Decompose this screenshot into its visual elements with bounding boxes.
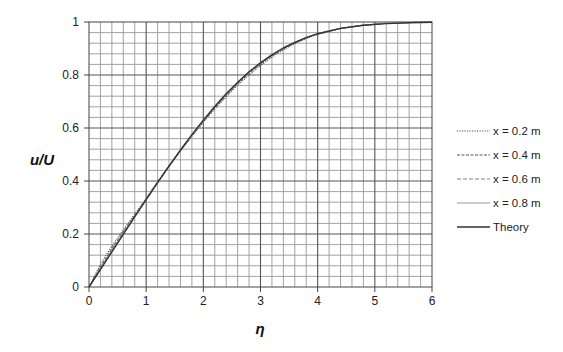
y-tick-label: 0.2 xyxy=(62,227,79,241)
y-axis-ticks: 00.20.40.60.81 xyxy=(62,15,89,294)
major-gridlines xyxy=(89,22,432,287)
legend-label: x = 0.4 m xyxy=(493,149,541,161)
y-axis-title: u/U xyxy=(30,151,55,168)
boundary-layer-velocity-chart: 0123456 00.20.40.60.81 η u/U x = 0.2 mx … xyxy=(0,0,563,352)
x-tick-label: 0 xyxy=(86,294,93,308)
y-tick-label: 0 xyxy=(72,280,79,294)
y-tick-label: 0.4 xyxy=(62,174,79,188)
x-tick-label: 3 xyxy=(257,294,264,308)
x-tick-label: 4 xyxy=(314,294,321,308)
legend-label: x = 0.2 m xyxy=(493,125,541,137)
x-axis-title: η xyxy=(255,320,264,337)
x-tick-label: 6 xyxy=(429,294,436,308)
legend-label: x = 0.6 m xyxy=(493,173,541,185)
x-tick-label: 5 xyxy=(371,294,378,308)
x-tick-label: 1 xyxy=(143,294,150,308)
y-tick-label: 1 xyxy=(72,15,79,29)
legend: x = 0.2 mx = 0.4 mx = 0.6 mx = 0.8 mTheo… xyxy=(457,125,541,233)
y-tick-label: 0.8 xyxy=(62,68,79,82)
x-axis-ticks: 0123456 xyxy=(86,287,436,308)
x-tick-label: 2 xyxy=(200,294,207,308)
legend-label: x = 0.8 m xyxy=(493,197,541,209)
legend-label: Theory xyxy=(493,221,529,233)
y-tick-label: 0.6 xyxy=(62,121,79,135)
